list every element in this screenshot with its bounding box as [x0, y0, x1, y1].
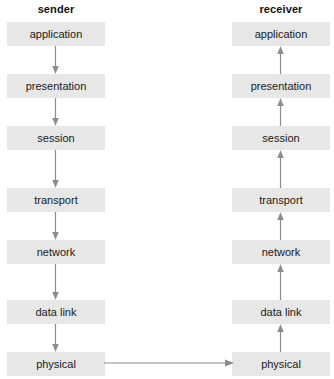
receiver-layer-application: application — [232, 22, 330, 46]
layer-label: data link — [36, 307, 77, 318]
receiver-arrow-up-physical-to-data-link — [275, 324, 286, 352]
sender-arrow-down-transport-to-network — [50, 212, 61, 240]
receiver-layer-data-link: data link — [232, 300, 330, 324]
receiver-layer-physical: physical — [232, 352, 330, 376]
sender-layer-transport: transport — [7, 188, 105, 212]
sender-layer-data-link: data link — [7, 300, 105, 324]
sender-layer-session: session — [7, 126, 105, 150]
receiver-layer-network: network — [232, 240, 330, 264]
osi-layer-diagram: sender receiver application presentation… — [0, 0, 334, 379]
sender-arrow-down-network-to-data-link — [50, 264, 61, 300]
layer-label: application — [255, 29, 308, 40]
sender-arrow-down-presentation-to-session — [50, 98, 61, 126]
layer-label: network — [37, 247, 76, 258]
layer-label: physical — [36, 359, 76, 370]
layer-label: session — [37, 133, 74, 144]
sender-column-header: sender — [7, 3, 105, 15]
sender-layer-physical: physical — [7, 352, 105, 376]
receiver-arrow-up-presentation-to-application — [275, 46, 286, 74]
layer-label: data link — [261, 307, 302, 318]
layer-label: application — [30, 29, 83, 40]
sender-arrow-down-session-to-transport — [50, 150, 61, 188]
layer-label: transport — [34, 195, 77, 206]
layer-label: presentation — [251, 81, 312, 92]
layer-label: network — [262, 247, 301, 258]
receiver-column-header: receiver — [232, 3, 330, 15]
physical-medium-link-arrow — [104, 357, 234, 369]
receiver-arrow-up-session-to-presentation — [275, 98, 286, 126]
sender-layer-application: application — [7, 22, 105, 46]
layer-label: physical — [261, 359, 301, 370]
layer-label: presentation — [26, 81, 87, 92]
receiver-arrow-up-data-link-to-network — [275, 264, 286, 300]
sender-arrow-down-application-to-presentation — [50, 46, 61, 74]
receiver-arrow-up-transport-to-session — [275, 150, 286, 188]
receiver-layer-transport: transport — [232, 188, 330, 212]
sender-arrow-down-data-link-to-physical — [50, 324, 61, 352]
layer-label: transport — [259, 195, 302, 206]
sender-layer-presentation: presentation — [7, 74, 105, 98]
sender-layer-network: network — [7, 240, 105, 264]
receiver-layer-presentation: presentation — [232, 74, 330, 98]
layer-label: session — [262, 133, 299, 144]
receiver-arrow-up-network-to-transport — [275, 212, 286, 240]
receiver-layer-session: session — [232, 126, 330, 150]
